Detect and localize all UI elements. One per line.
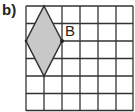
grid-diagram: B bbox=[0, 0, 135, 112]
point-b-marker bbox=[60, 39, 64, 43]
left-vertex-marker bbox=[25, 40, 28, 43]
rhombus-shape bbox=[26, 6, 62, 76]
point-b-label: B bbox=[65, 22, 75, 39]
